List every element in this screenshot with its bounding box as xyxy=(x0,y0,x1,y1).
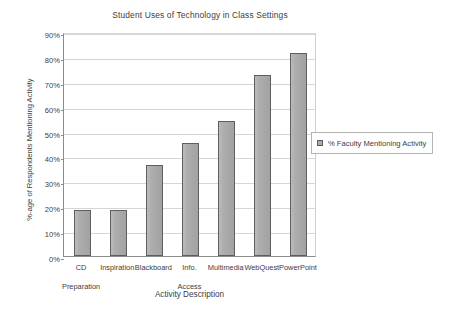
bar-info-access xyxy=(182,143,199,256)
legend-label: % Faculty Mentioning Activity xyxy=(328,139,426,148)
bar-cd-preparation xyxy=(74,210,91,256)
x-axis-title: Activity Description xyxy=(63,290,316,299)
y-tick-mark xyxy=(61,60,64,61)
plot-area: 0%10%20%30%40%50%60%70%80%90% xyxy=(63,33,316,257)
x-tick-label-inspiration: Inspiration xyxy=(100,262,134,274)
y-tick-mark xyxy=(61,110,64,111)
y-tick-label-10pct: 10% xyxy=(45,230,60,239)
x-tick-label-powerpoint: PowerPoint xyxy=(279,262,317,274)
y-axis-title: %-age of Respondents Mentioning Activity xyxy=(25,50,34,250)
bar-webquest xyxy=(254,75,271,256)
gridline-90pct: 90% xyxy=(64,34,315,35)
x-tick-label-webquest: WebQuest xyxy=(244,262,279,274)
y-tick-label-30pct: 30% xyxy=(45,180,60,189)
y-tick-mark xyxy=(61,159,64,160)
y-tick-label-40pct: 40% xyxy=(45,155,60,164)
x-tick-label-line1: Info. xyxy=(178,262,202,274)
y-tick-mark xyxy=(61,234,64,235)
x-tick-label-info-access: Info.Access xyxy=(178,262,202,292)
y-tick-label-20pct: 20% xyxy=(45,205,60,214)
chart-legend: % Faculty Mentioning Activity xyxy=(311,132,433,154)
x-tick-label-blackboard: Blackboard xyxy=(135,262,172,274)
bar-powerpoint xyxy=(290,53,307,256)
gridline-70pct: 70% xyxy=(64,84,315,85)
y-tick-mark xyxy=(61,259,64,260)
x-tick-label-line1: Inspiration xyxy=(100,262,134,274)
x-tick-label-line1: WebQuest xyxy=(244,262,279,274)
bar-blackboard xyxy=(146,165,163,256)
chart-figure: Student Uses of Technology in Class Sett… xyxy=(0,0,468,318)
bar-inspiration xyxy=(110,210,127,256)
y-tick-mark xyxy=(61,209,64,210)
y-tick-mark xyxy=(61,35,64,36)
bar-multimedia xyxy=(218,121,235,256)
y-tick-mark xyxy=(61,135,64,136)
y-tick-label-70pct: 70% xyxy=(45,80,60,89)
x-tick-label-line1: CD xyxy=(62,262,100,274)
gridline-50pct: 50% xyxy=(64,134,315,135)
x-tick-label-line1: Multimedia xyxy=(208,262,244,274)
x-tick-label-multimedia: Multimedia xyxy=(208,262,244,274)
chart-title: Student Uses of Technology in Class Sett… xyxy=(0,10,400,20)
y-tick-label-0pct: 0% xyxy=(49,255,60,264)
y-tick-mark xyxy=(61,85,64,86)
gridline-0pct: 0% xyxy=(64,258,315,259)
gridline-60pct: 60% xyxy=(64,109,315,110)
y-tick-label-60pct: 60% xyxy=(45,105,60,114)
y-tick-label-90pct: 90% xyxy=(45,31,60,40)
y-tick-label-50pct: 50% xyxy=(45,130,60,139)
x-tick-label-line1: Blackboard xyxy=(135,262,172,274)
y-tick-label-80pct: 80% xyxy=(45,55,60,64)
y-tick-mark xyxy=(61,184,64,185)
x-tick-label-cd-preparation: CDPreparation xyxy=(62,262,100,292)
legend-swatch-faculty xyxy=(317,140,323,146)
gridline-80pct: 80% xyxy=(64,59,315,60)
x-tick-label-line1: PowerPoint xyxy=(279,262,317,274)
